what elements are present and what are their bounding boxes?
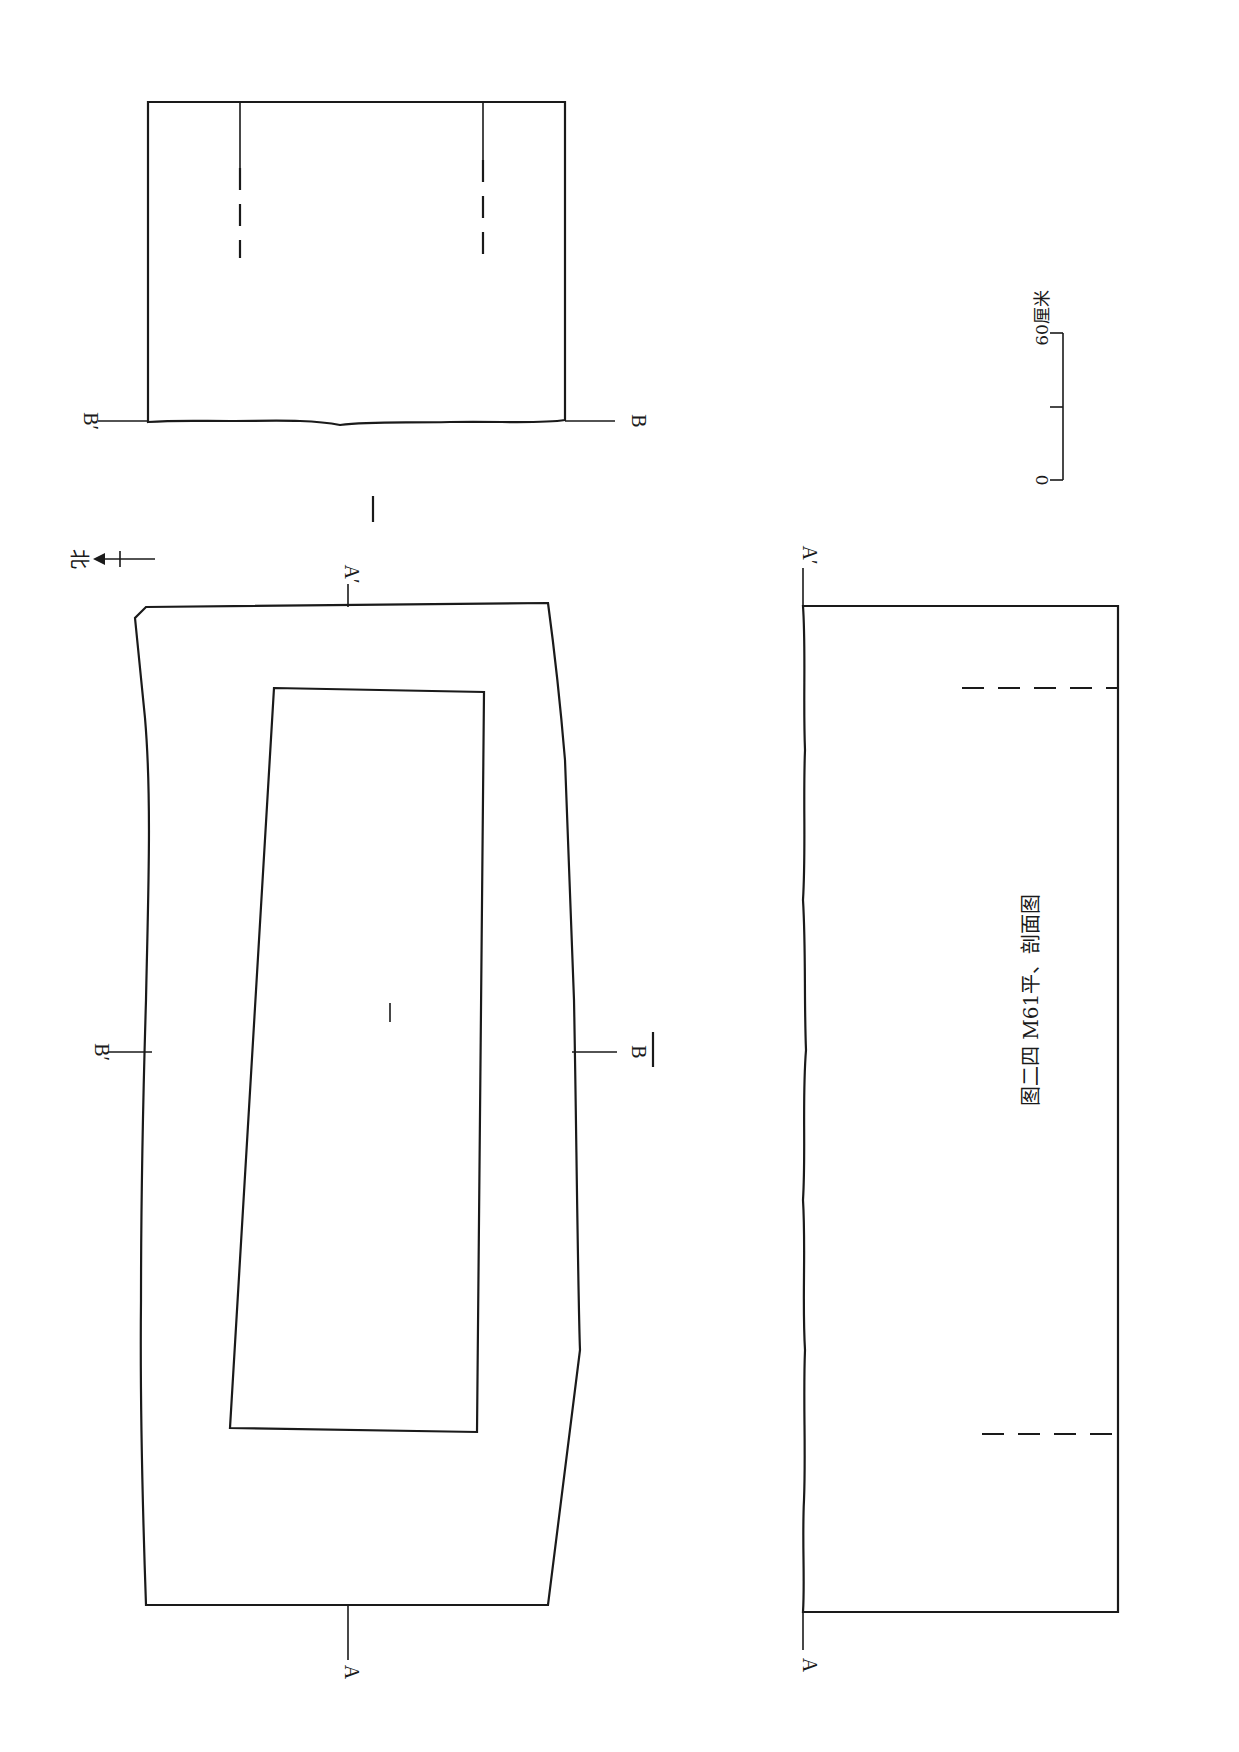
label-b-plan: B [628, 1045, 650, 1058]
label-b-prime-top: B′ [80, 412, 102, 430]
label-a-prime-section: A′ [799, 546, 821, 565]
label-b-top: B [628, 414, 650, 427]
label-b-prime-plan: B′ [91, 1043, 113, 1061]
figure-caption: 图二四 M61平、剖面图 [1019, 894, 1043, 1106]
label-a-section: A [799, 1658, 821, 1673]
label-a-plan: A [341, 1665, 363, 1680]
scale-bar: 0 60厘米 [1032, 290, 1063, 485]
m61-figure: B′ B A′ B′ B A 北 A′ A [0, 0, 1239, 1752]
plan-view: A′ B′ B A [91, 565, 650, 1680]
north-arrow: 北 [68, 549, 155, 569]
scale-end-label: 60厘米 [1032, 290, 1052, 346]
scale-start-label: 0 [1032, 475, 1052, 486]
label-a-prime-plan: A′ [341, 565, 363, 584]
north-label: 北 [68, 549, 90, 569]
section-b-b-view: B′ B [80, 102, 650, 430]
section-a-a-view: A′ A [799, 546, 1118, 1673]
